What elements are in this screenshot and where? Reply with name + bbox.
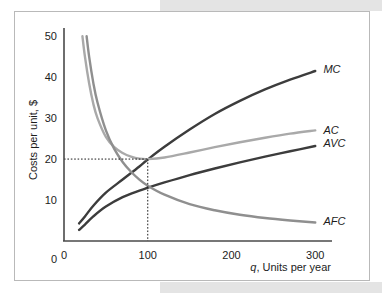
x-tick-label: 200 (222, 249, 240, 261)
curve-afc (87, 36, 316, 222)
curve-labels: MCACAVCAFC (322, 63, 345, 227)
y-tick-label: 10 (45, 194, 57, 206)
x-tick-label: 300 (306, 249, 324, 261)
cost-curves-chart: 01020304050 0100200300 MCACAVCAFC Costs … (15, 12, 371, 282)
x-tick-label: 0 (61, 249, 67, 261)
y-tick-label: 30 (45, 112, 57, 124)
curves-group (79, 36, 315, 230)
page-background-band-bottom (160, 282, 382, 293)
figure-card: 01020304050 0100200300 MCACAVCAFC Costs … (14, 11, 370, 281)
x-axis-tick-labels: 0100200300 (61, 249, 324, 261)
curve-avc (79, 146, 315, 230)
curve-label-avc: AVC (322, 137, 345, 149)
page-background-band-top (160, 0, 382, 11)
curve-label-mc: MC (323, 63, 340, 75)
y-tick-label: 40 (45, 71, 57, 83)
y-axis-title: Costs per unit, $ (27, 100, 39, 180)
curve-label-afc: AFC (322, 215, 345, 227)
y-tick-label: 0 (51, 253, 57, 265)
x-axis-title: q, Units per year (250, 261, 331, 273)
curve-label-ac: AC (322, 124, 338, 136)
x-tick-label: 100 (139, 249, 157, 261)
y-tick-label: 50 (45, 30, 57, 42)
y-axis-tick-labels: 01020304050 (45, 30, 57, 265)
curve-ac (82, 36, 315, 159)
ac-minimum-guides (64, 159, 148, 241)
y-tick-label: 20 (45, 153, 57, 165)
page-background-band-left (0, 282, 160, 293)
